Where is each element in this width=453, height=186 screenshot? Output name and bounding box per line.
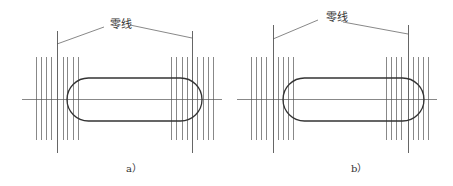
leader-line-a <box>130 25 192 38</box>
leader-line-b <box>343 22 408 34</box>
zero-line-diagram: 零线 a） 零线 b） <box>0 0 453 186</box>
zero-line-label-b: 零线 <box>326 8 348 24</box>
caption-a: a） <box>126 160 142 175</box>
zero-line-label-a: 零线 <box>110 15 132 31</box>
leader-line-a <box>57 27 104 44</box>
diagram-drawing <box>0 0 453 186</box>
leader-line-b <box>273 20 318 39</box>
caption-b: b） <box>351 160 367 175</box>
